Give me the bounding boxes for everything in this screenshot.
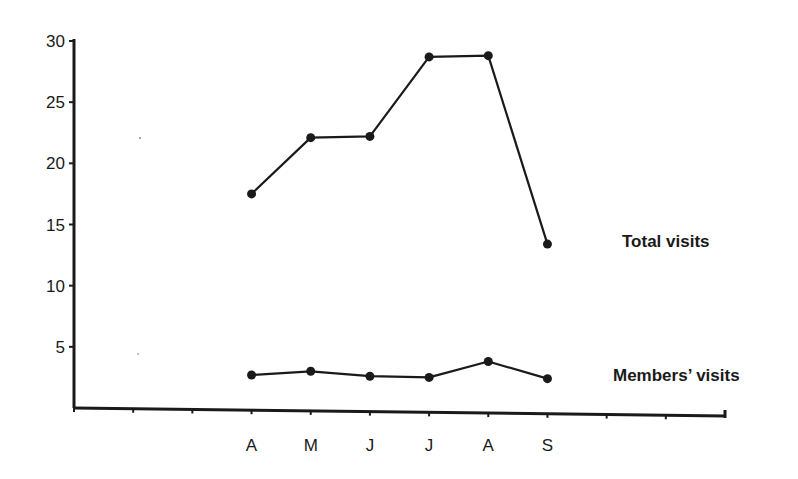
data-point-marker <box>425 373 434 382</box>
data-point-marker <box>543 374 552 383</box>
scan-speck <box>139 137 141 139</box>
total-visits-line <box>252 56 548 244</box>
y-tick-label: 10 <box>46 277 65 296</box>
members-visits-label: Members’ visits <box>613 366 740 385</box>
total-visits-label: Total visits <box>622 232 710 251</box>
data-point-marker <box>365 372 374 381</box>
x-tick-label: A <box>246 436 258 455</box>
data-point-marker <box>425 52 434 61</box>
data-point-marker <box>543 240 552 249</box>
x-axis <box>74 408 725 416</box>
series-group <box>247 51 552 383</box>
y-tick-label: 15 <box>46 216 65 235</box>
data-point-marker <box>306 367 315 376</box>
series-labels: Total visits Members’ visits <box>613 232 740 385</box>
y-tick-label: 25 <box>46 93 65 112</box>
x-tick-label: A <box>483 436 495 455</box>
y-tick-label: 20 <box>46 154 65 173</box>
data-point-marker <box>484 357 493 366</box>
x-tick-label: J <box>425 436 434 455</box>
members-visits-line <box>252 362 548 379</box>
data-point-marker <box>484 51 493 60</box>
line-chart: 51015202530AMJJAS Total visits Members’ … <box>0 0 798 479</box>
data-point-marker <box>306 133 315 142</box>
x-tick-label: S <box>542 436 553 455</box>
data-point-marker <box>247 370 256 379</box>
data-point-marker <box>247 189 256 198</box>
y-tick-label: 30 <box>46 32 65 51</box>
x-tick-label: M <box>304 436 318 455</box>
data-point-marker <box>365 132 374 141</box>
scan-speck <box>137 353 139 355</box>
y-tick-label: 5 <box>56 338 65 357</box>
x-tick-label: J <box>366 436 375 455</box>
